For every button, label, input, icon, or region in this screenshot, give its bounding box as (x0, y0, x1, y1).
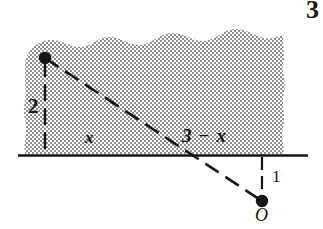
height-label-2: 2 (28, 96, 39, 117)
distance-label-x: x (85, 129, 94, 146)
drop-label-1: 1 (272, 168, 281, 185)
diagram-canvas (0, 0, 323, 229)
point-label-o: O (255, 206, 268, 224)
distance-label-three-minus-x: 3 − x (182, 126, 227, 145)
corner-numeral: 3 (306, 0, 319, 23)
top-point-dot (39, 52, 51, 64)
geometry-figure: 2 x 3 − x 1 O 3 (0, 0, 323, 229)
shaded-region (20, 25, 290, 157)
